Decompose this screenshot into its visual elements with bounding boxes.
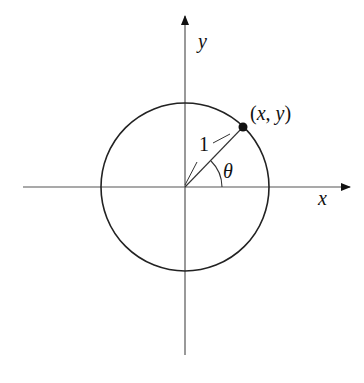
y-axis-label: y bbox=[196, 30, 207, 53]
point-label: (x, y) bbox=[250, 102, 291, 125]
radius-line bbox=[185, 127, 243, 187]
angle-label: θ bbox=[223, 160, 233, 182]
angle-arc bbox=[211, 161, 222, 187]
radius-label-leader bbox=[213, 134, 230, 143]
point-marker bbox=[239, 123, 248, 132]
x-axis-label: x bbox=[317, 187, 327, 209]
radius-label: 1 bbox=[199, 133, 209, 155]
unit-circle-diagram: y x (x, y) 1 θ bbox=[0, 0, 364, 383]
